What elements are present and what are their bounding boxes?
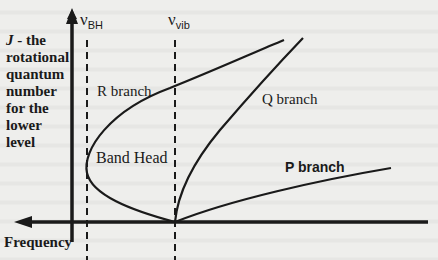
frequency-axis-arrowhead-icon [14,216,32,228]
q-branch-curve [175,38,303,222]
frequency-axis-label: Frequency [4,234,72,251]
nu-vib-subscript: vib [176,19,190,31]
j-axis-arrowhead-icon [66,8,78,24]
nu-vib-symbol: ν [168,10,176,29]
p-branch-curve [175,168,391,222]
nu-bh-label: νBH [80,10,103,31]
nu-bh-subscript: BH [88,19,103,31]
band-head-label: Band Head [96,150,168,166]
r-branch-label: R branch [97,84,152,99]
q-branch-label: Q branch [262,92,317,107]
j-symbol: J [6,32,14,48]
nu-vib-label: νvib [168,10,190,31]
j-axis-label: J - the rotational quantum number for th… [6,32,72,151]
p-branch-label: P branch [285,160,345,174]
r-branch-curve [86,40,284,222]
nu-bh-symbol: ν [80,10,88,29]
j-axis-description: - the rotational quantum number for the … [6,32,69,150]
